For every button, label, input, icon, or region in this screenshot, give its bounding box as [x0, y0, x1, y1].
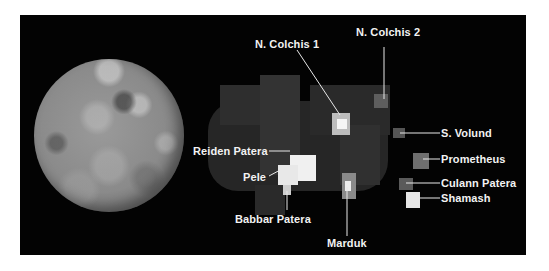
label-s-volund: S. Volund: [441, 127, 492, 139]
label-babbar-patera: Babbar Patera: [235, 213, 311, 225]
label-prometheus: Prometheus: [441, 153, 506, 165]
label-marduk: Marduk: [327, 237, 367, 249]
label-reiden-patera: Reiden Patera: [193, 145, 268, 157]
label-shamash: Shamash: [441, 192, 491, 204]
label-culann-patera: Culann Patera: [441, 177, 516, 189]
image-panel: N. Colchis 1 N. Colchis 2 S. Volund Prom…: [20, 15, 526, 255]
label-pele: Pele: [243, 171, 266, 183]
label-n-colchis-2: N. Colchis 2: [356, 26, 420, 38]
label-n-colchis-1: N. Colchis 1: [255, 38, 319, 50]
